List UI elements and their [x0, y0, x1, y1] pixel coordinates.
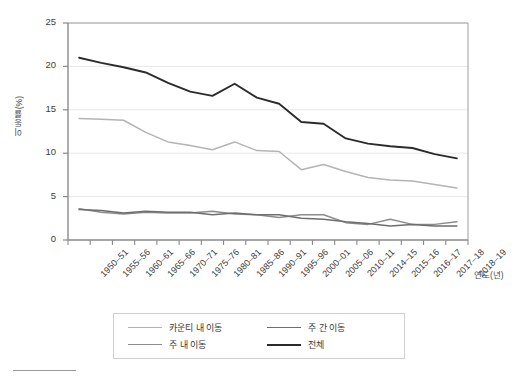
y-tick-label-15: 15 [38, 103, 56, 114]
legend-item[interactable]: 전체 [259, 338, 398, 351]
legend-line-icon [128, 327, 162, 328]
legend-label: 전체 [308, 338, 324, 351]
series-line-1 [79, 209, 457, 225]
legend-item[interactable]: 카운티 내 이동 [120, 321, 259, 334]
legend-item[interactable]: 주 간 이동 [259, 321, 398, 334]
y-tick-label-25: 25 [38, 16, 56, 27]
legend-label: 주 내 이동 [169, 338, 206, 351]
chart-figure: 이동률(%) 연도(년) 0510152025 1950–511955–5619… [0, 0, 523, 377]
series-line-2 [79, 210, 457, 226]
legend-line-icon [128, 344, 162, 345]
legend-label: 카운티 내 이동 [169, 321, 222, 334]
y-tick-label-5: 5 [38, 190, 56, 201]
chart-legend: 카운티 내 이동주 간 이동주 내 이동전체 [113, 313, 405, 359]
legend-item[interactable]: 주 내 이동 [120, 338, 259, 351]
series-line-3 [79, 58, 457, 159]
y-tick-label-20: 20 [38, 59, 56, 70]
footnote-separator [13, 370, 76, 371]
y-tick-label-0: 0 [38, 233, 56, 244]
legend-line-icon [267, 327, 301, 328]
y-axis-title: 이동률(%) [14, 96, 28, 136]
legend-label: 주 간 이동 [308, 321, 345, 334]
legend-line-icon [267, 344, 301, 346]
y-tick-label-10: 10 [38, 146, 56, 157]
